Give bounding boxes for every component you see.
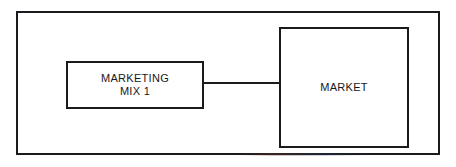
node-market: MARKET <box>279 27 409 148</box>
connector-marketing-mix-to-market <box>203 82 280 84</box>
node-marketing-mix-1: MARKETING MIX 1 <box>66 61 204 109</box>
node-market-label: MARKET <box>320 81 368 94</box>
node-marketing-mix-1-label: MARKETING MIX 1 <box>101 72 169 98</box>
diagram-canvas: MARKETING MIX 1 MARKET <box>0 0 456 167</box>
outer-frame: MARKETING MIX 1 MARKET <box>16 11 440 155</box>
